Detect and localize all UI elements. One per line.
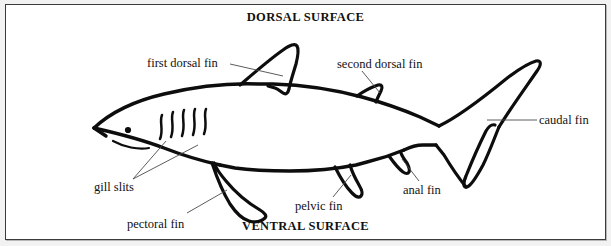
shark-body-group [94,45,540,222]
figure-frame: DORSAL SURFACE VENTRAL SURFACE first dor… [5,4,606,240]
caudal-fin-ventral-join [436,145,466,187]
eye-dot [125,127,131,133]
gill-slits-group [160,109,206,139]
label-caudal-fin: caudal fin [539,113,589,128]
label-second-dorsal-fin: second dorsal fin [337,57,422,72]
leader-first-dorsal-fin [230,64,283,76]
throat-contour [94,128,220,165]
gill-slit-1 [160,115,162,139]
ventral-surface-label: VENTRAL SURFACE [6,219,605,234]
caudal-fin-upper-lobe [439,61,540,127]
leader-anal-fin [402,159,419,181]
label-gill-slits: gill slits [94,180,134,195]
figure-root: DORSAL SURFACE VENTRAL SURFACE first dor… [0,0,611,246]
dorsal-surface-label: DORSAL SURFACE [6,10,605,25]
gill-slit-3 [182,110,184,136]
first-dorsal-fin [240,45,298,94]
label-pectoral-fin: pectoral fin [127,217,184,232]
dorsal-contour [94,84,439,128]
gill-slit-5 [204,109,206,134]
leader-lines-group [133,64,537,213]
label-pelvic-fin: pelvic fin [295,199,343,214]
gill-slit-2 [171,112,173,137]
label-first-dorsal-fin: first dorsal fin [147,56,218,71]
leader-pectoral-fin [187,190,227,213]
ventral-contour [220,150,404,171]
pelvic-fin [335,165,362,197]
ventral-peduncle [404,145,436,150]
gill-slit-4 [193,109,195,135]
label-anal-fin: anal fin [403,183,441,198]
leader-gill-slits-upper [133,141,166,179]
caudal-fin-lower-lobe [464,125,499,187]
